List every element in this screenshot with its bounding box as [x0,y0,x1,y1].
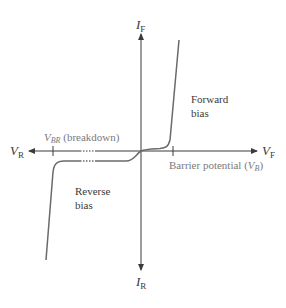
if-label: IF [135,17,145,34]
forward-bias-label: Forward bias [191,93,231,119]
ir-label: IR [135,274,146,291]
reverse-bias-curve [46,151,141,260]
breakdown-label: VBR (breakdown) [44,131,120,145]
vf-label: VF [262,143,275,160]
barrier-potential-label: Barrier potential (VB) [169,159,263,173]
diode-iv-diagram: IF IR VR VF Forward bias Reverse bias VB… [0,0,286,308]
vr-label: VR [10,143,24,160]
reverse-bias-label: Reverse bias [75,185,113,211]
forward-bias-curve [141,40,179,151]
